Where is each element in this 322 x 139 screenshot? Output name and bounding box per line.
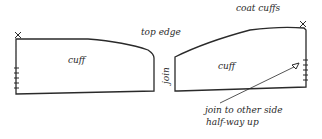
left-cuff-outline <box>16 39 154 94</box>
right-x-marker-icon <box>300 21 306 27</box>
diagram-title: coat cuffs <box>236 4 280 13</box>
right-cuff-outline <box>175 27 306 91</box>
left-x-marker-icon <box>15 32 21 38</box>
note-line-1: join to other side <box>205 106 283 115</box>
right-cuff-label: cuff <box>218 62 235 71</box>
note-line-2: half-way up <box>206 118 259 127</box>
left-cuff-label: cuff <box>68 56 85 65</box>
join-label: join <box>162 67 171 84</box>
coat-cuffs-diagram: coat cuffs top edge join cuff cuff join … <box>0 0 322 139</box>
pointer-line <box>220 66 296 103</box>
top-edge-label: top edge <box>141 28 181 37</box>
arrowhead-icon <box>292 63 299 69</box>
